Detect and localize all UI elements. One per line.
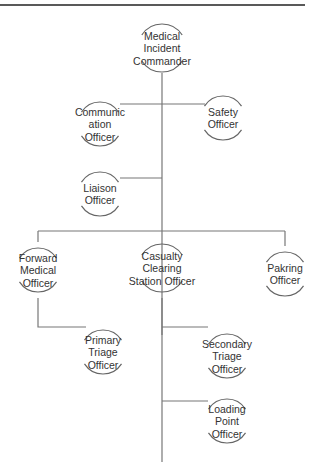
node-label-line: Pakring (267, 262, 303, 274)
node-label-line: Commander (133, 55, 191, 67)
node-label-line: Primary (85, 334, 122, 346)
node-label-line: Communic (75, 106, 125, 118)
node-label-line: Officer (88, 359, 119, 371)
node-label-line: Clearing (142, 262, 181, 274)
node-pto: PrimaryTriageOfficer (84, 330, 121, 374)
node-label-line: Station Officer (129, 275, 196, 287)
node-label-line: Officer (208, 118, 239, 130)
node-label-line: Officer (85, 131, 116, 143)
node-label-line: Triage (212, 350, 242, 362)
node-label-line: Secondary (202, 338, 253, 350)
node-label-line: Medical (144, 30, 180, 42)
node-ccso: CasualtyClearingStation Officer (129, 244, 196, 292)
node-label-line: Officer (212, 428, 243, 440)
node-parking: PakringOfficer (266, 252, 303, 296)
node-arc-top (81, 172, 118, 182)
node-label-line: Safety (208, 106, 239, 118)
node-label-line: Point (215, 415, 239, 427)
node-label-line: Forward (19, 252, 58, 264)
node-arc-bottom (81, 206, 118, 216)
node-label-line: Officer (212, 363, 243, 375)
node-mic: MedicalIncidentCommander (133, 24, 191, 72)
node-arc-bottom (204, 130, 241, 140)
node-label-line: Officer (23, 277, 54, 289)
node-arc-top (266, 252, 303, 262)
node-label-line: Liaison (83, 182, 116, 194)
node-label-line: Loading (208, 403, 246, 415)
node-fmo: ForwardMedicalOfficer (19, 248, 58, 292)
node-label-line: Medical (20, 264, 56, 276)
node-lpo: LoadingPointOfficer (208, 399, 246, 443)
nodes: MedicalIncidentCommanderCommunicationOff… (19, 24, 304, 443)
node-comm: CommunicationOfficer (75, 102, 125, 146)
node-arc-bottom (266, 286, 303, 296)
org-chart-diagram: MedicalIncidentCommanderCommunicationOff… (0, 0, 319, 462)
node-label-line: Casualty (142, 250, 184, 262)
node-safety: SafetyOfficer (204, 96, 241, 140)
node-label-line: ation (89, 118, 112, 130)
node-label-line: Triage (88, 346, 118, 358)
node-arc-top (204, 96, 241, 106)
node-label-line: Officer (85, 194, 116, 206)
connector-fmo-pto (38, 298, 86, 327)
node-sto: SecondaryTriageOfficer (202, 334, 253, 378)
node-label-line: Incident (144, 42, 181, 54)
node-label-line: Officer (270, 274, 301, 286)
node-liaison: LiaisonOfficer (81, 172, 118, 216)
